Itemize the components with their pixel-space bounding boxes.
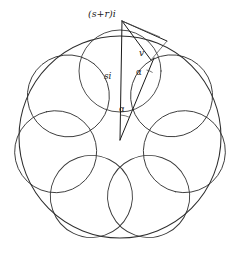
geometry-diagram: (s+r)i si v α α <box>0 0 245 266</box>
figure-container: (s+r)i si v α α <box>0 0 245 266</box>
petal-circle-4 <box>94 142 203 251</box>
segment-vertical-axis <box>120 21 122 140</box>
label-angle-lower: α <box>119 104 125 114</box>
label-v: v <box>139 48 144 58</box>
label-apex: (s+r)i <box>88 8 116 19</box>
label-si: si <box>104 71 112 81</box>
angle-arc-v <box>147 70 153 73</box>
inner-circle-group-seven <box>7 30 234 251</box>
petal-circle-5 <box>37 142 146 251</box>
label-angle-upper: α <box>136 67 142 77</box>
angle-arc-center <box>121 115 130 117</box>
